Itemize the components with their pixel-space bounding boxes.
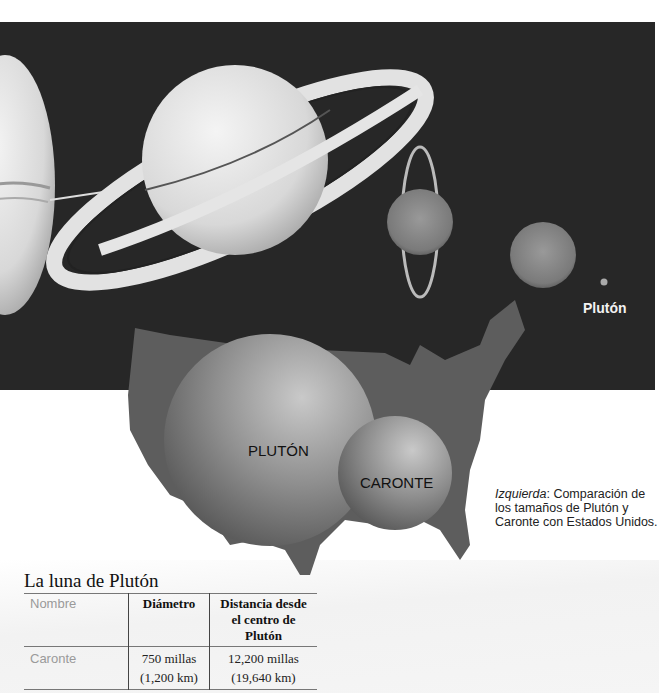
charon-sphere-icon: [338, 416, 452, 530]
pluto-sphere-icon: [164, 334, 376, 546]
pluto-label: Plutón: [583, 300, 627, 316]
header-diameter: Diámetro: [129, 594, 210, 647]
caption-lead: Izquierda: [495, 487, 546, 501]
distance-miles: 12,200 millas: [216, 649, 311, 668]
cell-name: Caronte: [24, 647, 129, 690]
diameter-miles: 750 millas: [135, 649, 203, 668]
charon-sphere-label: CARONTE: [360, 474, 433, 491]
figure-caption: Izquierda: Comparación de los tamaños de…: [495, 487, 659, 529]
uranus-icon: [387, 147, 453, 297]
distance-km: (19,640 km): [216, 668, 311, 687]
saturn-icon: [32, 41, 449, 320]
pluto-dot-icon: [601, 279, 608, 286]
table-row: Caronte 750 millas(1,200 km) 12,200 mill…: [24, 647, 317, 690]
moon-table: Nombre Diámetro Distancia desde el centr…: [24, 593, 317, 690]
cell-distance: 12,200 millas(19,640 km): [210, 647, 318, 690]
cell-diameter: 750 millas(1,200 km): [129, 647, 210, 690]
diameter-km: (1,200 km): [135, 668, 203, 687]
neptune-icon: [510, 222, 576, 288]
header-name: Nombre: [24, 594, 129, 647]
table-title: La luna de Plutón: [24, 570, 159, 592]
pluto-sphere-label: PLUTÓN: [248, 442, 309, 459]
header-distance: Distancia desde el centro de Plutón: [210, 594, 318, 647]
table-header-row: Nombre Diámetro Distancia desde el centr…: [24, 594, 317, 647]
